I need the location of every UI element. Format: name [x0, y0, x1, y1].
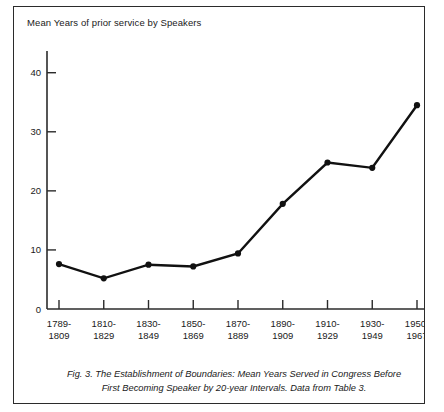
data-point-8 [414, 102, 420, 108]
figure-frame: Mean Years of prior service by Speakers … [13, 6, 425, 404]
x-tick-label-top-0: 1789- [47, 318, 71, 329]
line-chart-plot: 010203040 1789-18091810-18291830-1849185… [14, 7, 424, 403]
x-tick-label-bottom-7: 1949 [362, 330, 383, 341]
data-point-3 [190, 263, 196, 269]
x-tick-label-top-7: 1930- [360, 318, 384, 329]
x-tick-label-top-4: 1870- [226, 318, 250, 329]
data-point-4 [235, 250, 241, 256]
x-tick-label-bottom-6: 1929 [317, 330, 338, 341]
x-tick-label-top-8: 1950- [405, 318, 424, 329]
x-tick-label-bottom-4: 1889 [227, 330, 248, 341]
data-series-mean-years [56, 102, 420, 281]
data-point-6 [324, 159, 330, 165]
y-tick-label-0: 0 [36, 304, 41, 315]
x-tick-label-top-3: 1850- [181, 318, 205, 329]
x-tick-label-bottom-1: 1829 [93, 330, 114, 341]
data-point-5 [280, 201, 286, 207]
y-tick-label-40: 40 [30, 67, 41, 78]
x-axis: 1789-18091810-18291830-18491850-18691870… [47, 300, 424, 341]
caption-line-2: First Becoming Speaker by 20-year Interv… [48, 381, 420, 395]
x-tick-label-bottom-3: 1869 [183, 330, 204, 341]
data-point-2 [145, 262, 151, 268]
x-tick-label-bottom-8: 1967 [406, 330, 424, 341]
x-tick-label-top-6: 1910- [315, 318, 339, 329]
caption-line-1: Fig. 3. The Establishment of Boundaries:… [48, 367, 420, 381]
x-tick-label-bottom-2: 1849 [138, 330, 159, 341]
x-tick-label-top-1: 1810- [92, 318, 116, 329]
figure-caption: Fig. 3. The Establishment of Boundaries:… [48, 367, 420, 395]
x-tick-label-top-2: 1830- [136, 318, 160, 329]
y-tick-label-20: 20 [30, 185, 41, 196]
x-tick-label-bottom-5: 1909 [272, 330, 293, 341]
y-axis: 010203040 [30, 51, 56, 315]
y-tick-label-30: 30 [30, 126, 41, 137]
data-point-7 [369, 165, 375, 171]
x-tick-label-top-5: 1890- [271, 318, 295, 329]
data-point-0 [56, 261, 62, 267]
x-tick-label-bottom-0: 1809 [48, 330, 69, 341]
y-tick-label-10: 10 [30, 244, 41, 255]
data-point-1 [101, 275, 107, 281]
